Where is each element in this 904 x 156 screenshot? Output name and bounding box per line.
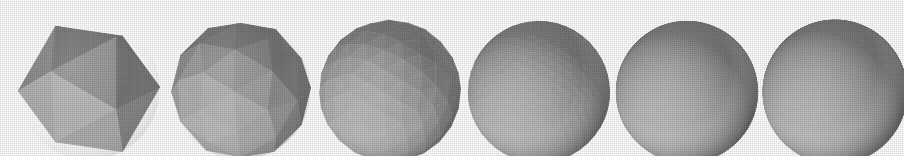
sphere-rim-shading bbox=[18, 18, 159, 156]
mesh-icosphere-level-1 bbox=[166, 12, 316, 156]
shape-icosahedron-level-0 bbox=[14, 11, 136, 145]
shape-icosphere-level-2 bbox=[315, 13, 433, 143]
sphere-rim-shading bbox=[172, 21, 311, 156]
shape-icosphere-level-5 bbox=[760, 14, 878, 142]
sphere-rim-shading bbox=[320, 21, 461, 156]
mesh-icosphere-level-5 bbox=[760, 14, 904, 156]
sphere-rim-shading bbox=[469, 22, 610, 156]
mesh-icosphere-level-3 bbox=[464, 14, 614, 156]
mesh-icosphere-level-2 bbox=[315, 13, 465, 156]
shape-icosphere-level-1 bbox=[166, 12, 284, 144]
shape-icosphere-level-3 bbox=[464, 14, 580, 142]
figure-root bbox=[0, 0, 904, 156]
mesh-icosahedron-level-0 bbox=[14, 11, 164, 156]
sphere-rim-shading bbox=[617, 22, 758, 156]
mesh-icosphere-level-4 bbox=[612, 14, 762, 156]
shape-icosphere-level-4 bbox=[612, 14, 728, 142]
